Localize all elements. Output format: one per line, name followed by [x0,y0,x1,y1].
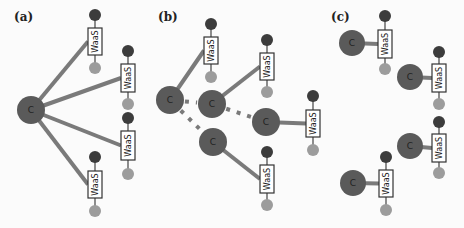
dark-node-icon [261,34,273,46]
dark-node-icon [122,45,134,57]
peer-link-dotted [181,110,203,131]
architecture-diagram: CWaaSWaaSWaaSWaaS(a)CCCCWaaSWaaSWaaSWaaS… [0,0,464,228]
waas-label: WaaS [381,33,390,55]
light-node-icon [307,144,319,156]
waas-service: WaaS [121,112,135,180]
panel-label: (b) [158,10,178,24]
dark-node-icon [89,151,101,163]
controller-label: C [167,95,173,105]
links [170,51,306,180]
panel-a: CWaaSWaaSWaaSWaaS(a) [14,9,135,217]
waas-service: WaaS [379,151,393,216]
dark-node-icon [307,90,319,102]
waas-label: WaaS [435,137,444,159]
light-node-icon [379,63,391,75]
waas-label: WaaS [309,112,318,134]
waas-service: WaaS [306,90,320,156]
dark-node-icon [379,10,391,22]
controller-label: C [28,105,34,115]
diagram-canvas: CWaaSWaaSWaaSWaaS(a)CCCCWaaSWaaSWaaSWaaS… [0,0,464,228]
waas-label: WaaS [263,55,272,77]
controller-node: C [156,86,184,114]
waas-service: WaaS [204,18,218,83]
waas-service: WaaS [121,45,135,110]
light-node-icon [89,62,101,74]
light-node-icon [205,71,217,83]
controller-node: C [397,133,423,159]
waas-label: WaaS [91,173,100,195]
waas-label: WaaS [91,30,100,52]
controller-label: C [210,137,216,147]
dark-node-icon [122,112,134,124]
controller-node: C [397,64,423,90]
panel-c: CCCCWaaSWaaSWaaSWaaS(c) [331,10,446,216]
light-node-icon [433,167,445,179]
dark-node-icon [433,116,445,128]
controller-label: C [407,141,413,151]
waas-service: WaaS [260,34,274,98]
light-node-icon [433,98,445,110]
waas-label: WaaS [124,134,133,156]
peer-link-dotted [185,101,197,102]
controller-label: C [209,99,215,109]
waas-label: WaaS [382,172,391,194]
dark-node-icon [205,18,217,30]
panel-label: (c) [331,10,350,24]
light-node-icon [122,98,134,110]
dark-node-icon [380,151,392,163]
links [352,43,432,184]
dark-node-icon [433,46,445,58]
dark-node-icon [89,9,101,21]
waas-label: WaaS [124,67,133,89]
controller-label: C [407,72,413,82]
panel-b: CCCCWaaSWaaSWaaSWaaS(b) [156,10,320,211]
light-node-icon [261,86,273,98]
controller-node: C [198,90,226,118]
peer-link-dotted [226,109,252,118]
waas-service: WaaS [432,116,446,179]
controller-node: C [339,30,365,56]
waas-service: WaaS [432,46,446,110]
light-node-icon [261,199,273,211]
controller-label: C [350,178,356,188]
waas-service: WaaS [88,9,102,74]
controller-label: C [263,117,269,127]
waas-service: WaaS [260,146,274,211]
controller-node: C [17,96,45,124]
light-node-icon [380,204,392,216]
waas-label: WaaS [263,168,272,190]
panel-label: (a) [14,10,33,24]
light-node-icon [89,205,101,217]
waas-label: WaaS [435,67,444,89]
controller-node: C [252,108,280,136]
controller-label: C [349,38,355,48]
controller-node: C [340,170,366,196]
waas-service: WaaS [88,151,102,217]
dark-node-icon [261,146,273,158]
light-node-icon [122,168,134,180]
waas-label: WaaS [207,39,216,61]
waas-service: WaaS [378,10,392,75]
controller-node: C [199,128,227,156]
